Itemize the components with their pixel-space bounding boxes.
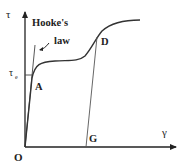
point-g-label: G <box>89 133 97 144</box>
elastic-limit-subscript: e <box>15 74 18 80</box>
x-axis-label: γ <box>161 126 167 138</box>
point-d-label: D <box>101 36 109 47</box>
stress-strain-diagram: τ γ O τ e Hooke's law A D G <box>0 0 187 164</box>
point-a-label: A <box>35 81 43 92</box>
y-axis-label: τ <box>6 8 11 20</box>
elastic-limit-label: τ <box>9 67 13 78</box>
annotation-law: law <box>54 35 70 46</box>
annotation-hookes: Hooke's <box>32 17 68 28</box>
origin-label: O <box>14 151 23 163</box>
arrow-head-icon <box>39 47 43 51</box>
